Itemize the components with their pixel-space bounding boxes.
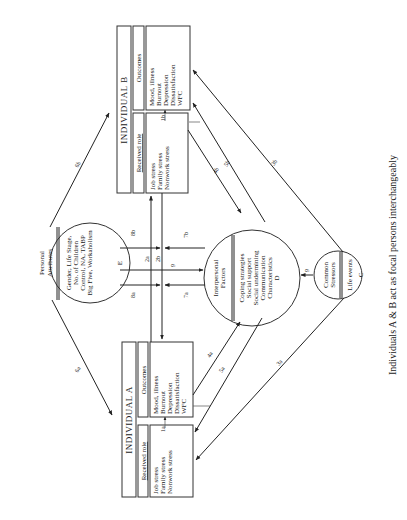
path-5a-label: 5a	[218, 365, 226, 373]
path-9-label: 9	[170, 264, 176, 267]
individual-a-outcome-4: WFC	[180, 399, 188, 415]
path-2a-label: 2a	[144, 256, 150, 262]
individual-b-title: INDIVIDUAL B	[119, 76, 129, 143]
path-4a-arrow	[193, 322, 240, 395]
path-6a-arrow	[52, 300, 112, 415]
personal-attributes-item-3: Big Five, Workaholism	[86, 230, 94, 296]
path-6b-arrow	[50, 113, 109, 227]
path-3b-arrow	[193, 70, 343, 252]
path-2b-label: 2b	[155, 256, 161, 262]
individual-b-received-role-header: Received role	[135, 134, 143, 173]
individual-a-stressor-2: Nonwork stress	[166, 450, 174, 494]
individual-a-outcomes-header: Outcomes	[140, 366, 148, 395]
path-4a-label: 4a	[206, 350, 214, 358]
diagram-caption: Individuals A & B act as focal persons i…	[387, 155, 398, 375]
individual-b-stressor-2: Nonwork stress	[163, 146, 171, 190]
common-stressors-node: Common Stressors Life events C	[314, 251, 365, 299]
path-1a-label: 1a	[160, 426, 166, 432]
path-4b-label: 4b	[212, 166, 220, 174]
personal-attributes-title-1: Attributes	[46, 249, 54, 277]
conceptual-model-diagram: INDIVIDUAL B Outcomes Received role Mood…	[0, 0, 407, 520]
individual-a-received-role-header: Received role	[140, 442, 148, 481]
interpersonal-factors-node: Interpersonal Factors Coping strategies …	[204, 230, 300, 326]
individual-a-title: INDIVIDUAL A	[124, 386, 134, 453]
interpersonal-factors-title-1: Factors	[219, 267, 227, 288]
interpersonal-factors-code: D	[273, 275, 281, 280]
individual-a-block: INDIVIDUAL A Outcomes Received role Mood…	[122, 342, 210, 497]
common-stressors-title-1: Stressors	[329, 262, 337, 288]
personal-attributes-code: E	[116, 261, 124, 265]
individual-b-outcomes-header: Outcomes	[135, 54, 143, 83]
individual-b-outcome-4: WFC	[176, 91, 184, 107]
path-8b-label: 8b	[130, 230, 136, 236]
personal-attributes-title-0: Personal	[38, 251, 46, 275]
path-9c-label: 9	[304, 269, 310, 272]
path-1b-label: 1b	[160, 115, 166, 121]
path-7a-label: 7a	[183, 292, 189, 298]
personal-attributes-node: Personal Attributes Gender, Life Stage, …	[38, 223, 130, 303]
path-8a-label: 8a	[130, 292, 136, 298]
common-stressors-item-0: Life events	[346, 259, 354, 291]
individual-b-block: INDIVIDUAL B Outcomes Received role Mood…	[117, 26, 200, 193]
path-6a-label: 6a	[74, 365, 82, 373]
path-5b-label: 5b	[223, 159, 231, 167]
common-stressors-code: C	[357, 272, 365, 277]
path-5a-arrow	[195, 318, 262, 432]
path-7b-label: 7b	[183, 232, 189, 238]
